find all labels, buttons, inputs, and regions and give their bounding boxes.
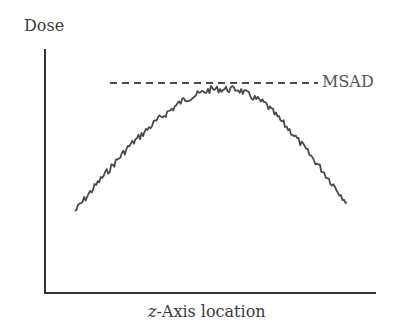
chart-plot-area xyxy=(0,0,399,334)
x-axis-label-text: -Axis location xyxy=(156,302,265,321)
dose-profile-curve xyxy=(75,86,347,211)
dose-profile-chart: Dose z-Axis location MSAD xyxy=(0,0,399,334)
msad-label: MSAD xyxy=(322,72,374,91)
y-axis-label: Dose xyxy=(24,16,64,35)
x-axis-label: z-Axis location xyxy=(148,302,266,321)
